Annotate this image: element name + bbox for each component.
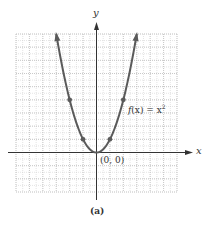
parabola-plot [0,0,209,232]
y-axis-label: y [93,7,99,18]
figure-caption: (a) [90,206,104,216]
origin-label: (0, 0) [100,155,124,165]
x-axis-label: x [196,145,202,156]
function-label: f(x) = x2 [128,103,166,115]
